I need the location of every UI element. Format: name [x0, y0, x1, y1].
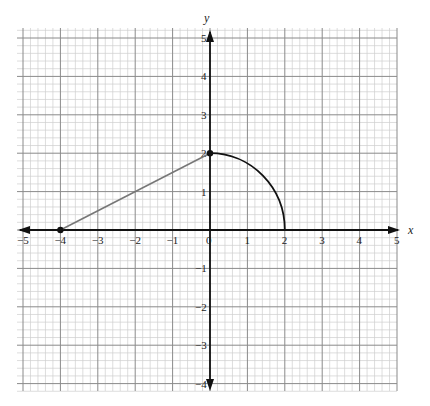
x-tick-label: 1	[244, 234, 250, 246]
y-tick-label: −2	[195, 301, 207, 313]
y-tick-label: −4	[195, 378, 207, 390]
coordinate-plane: −5−4−3−2−1012345−4−3−2−112345 x y	[0, 0, 430, 406]
marked-point	[207, 150, 213, 156]
x-tick-label: 2	[282, 234, 288, 246]
x-tick-label: 5	[394, 234, 400, 246]
minor-grid	[17, 28, 397, 391]
x-tick-label: 4	[357, 234, 363, 246]
marked-point	[57, 227, 63, 233]
y-tick-label: 4	[201, 70, 207, 82]
tick-labels: −5−4−3−2−1012345−4−3−2−112345	[17, 32, 400, 390]
major-grid	[17, 28, 397, 391]
x-tick-label: −4	[54, 234, 66, 246]
x-tick-label: −1	[167, 234, 179, 246]
y-tick-label: 5	[201, 32, 207, 44]
x-tick-label: −2	[129, 234, 141, 246]
x-tick-label: 3	[319, 234, 325, 246]
y-tick-label: −3	[195, 339, 207, 351]
y-tick-label: −1	[195, 262, 207, 274]
y-axis-label: y	[203, 11, 210, 25]
y-tick-label: 3	[201, 109, 207, 121]
y-tick-label: 1	[201, 186, 207, 198]
x-tick-label: −5	[17, 234, 29, 246]
x-axis-label: x	[407, 223, 414, 237]
x-tick-label: 0	[206, 234, 212, 246]
x-tick-label: −3	[92, 234, 104, 246]
